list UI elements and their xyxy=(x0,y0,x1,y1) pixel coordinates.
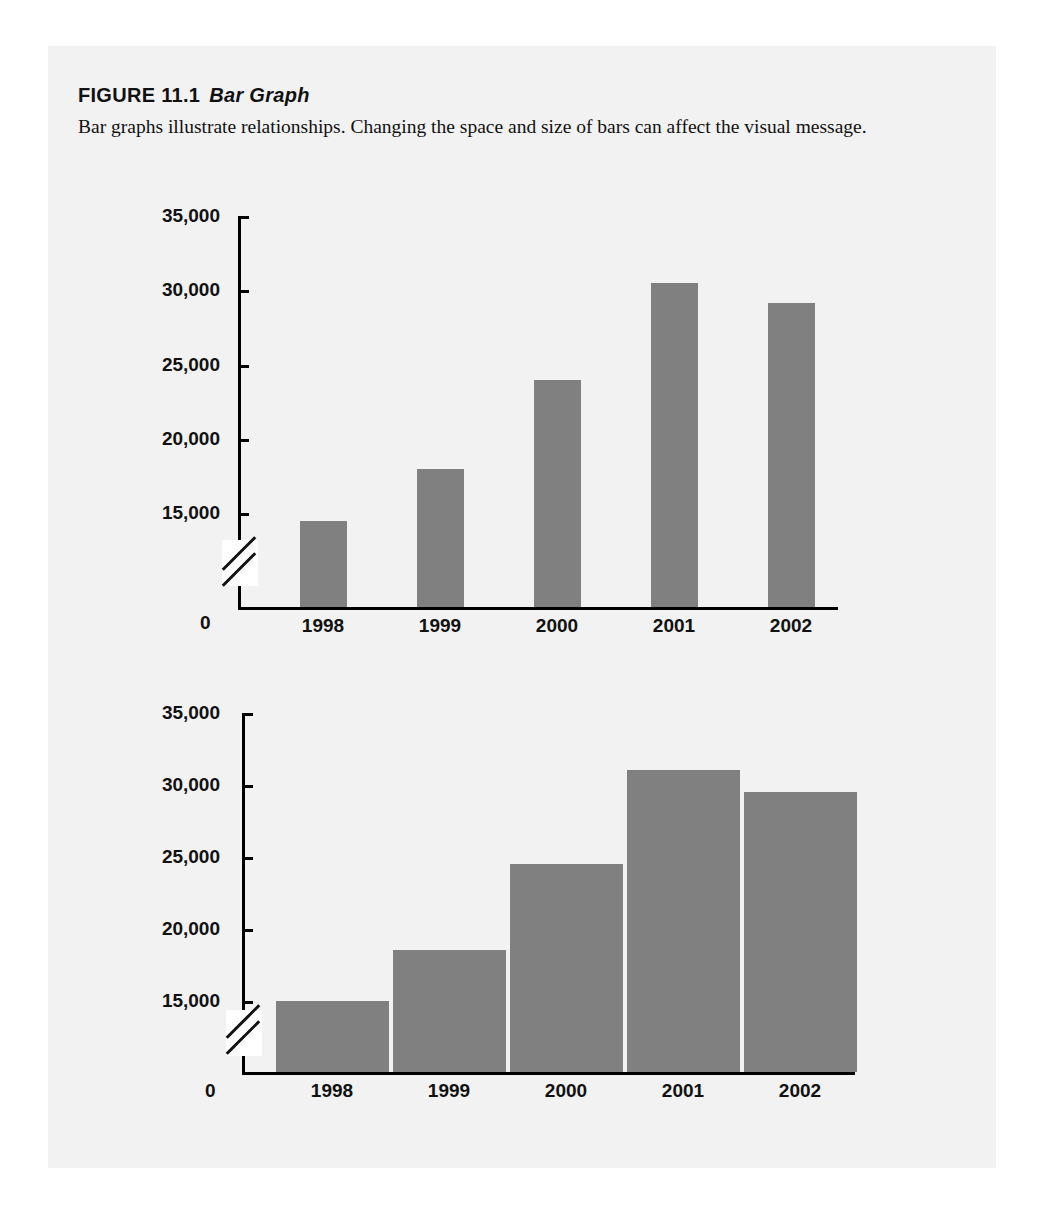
bar-chart-wide: 35,000 30,000 25,000 20,000 15,000 0 199… xyxy=(0,0,1046,1150)
x-tick-label: 1999 xyxy=(404,1080,494,1102)
x-tick-label: 2002 xyxy=(755,1080,845,1102)
x-tick-label: 1998 xyxy=(287,1080,377,1102)
figure-page: FIGURE 11.1Bar Graph Bar graphs illustra… xyxy=(0,0,1046,1214)
bar-1998 xyxy=(276,1001,389,1072)
bar-1999 xyxy=(393,950,506,1072)
y-tick-label: 15,000 xyxy=(120,990,220,1012)
y-tick-label: 30,000 xyxy=(120,774,220,796)
y-tick-label: 20,000 xyxy=(120,918,220,940)
bar-2000 xyxy=(510,864,623,1072)
y-axis-break xyxy=(226,1010,262,1056)
y-axis-zero-label: 0 xyxy=(205,1080,216,1102)
x-tick-label: 2000 xyxy=(521,1080,611,1102)
y-tick-label: 25,000 xyxy=(120,846,220,868)
bar-2002 xyxy=(744,792,857,1072)
x-tick-label: 2001 xyxy=(638,1080,728,1102)
x-axis-line xyxy=(242,1072,855,1075)
bar-2001 xyxy=(627,770,740,1072)
y-tick-label: 35,000 xyxy=(120,702,220,724)
